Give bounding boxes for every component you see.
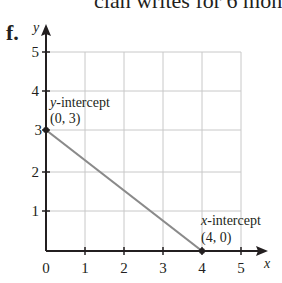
y-tick-5: 5 — [32, 44, 40, 60]
x-tick-3: 3 — [159, 260, 167, 276]
y-intercept-title: y-intercept — [48, 95, 110, 110]
x-tick-labels: 0 1 2 3 4 5 — [42, 260, 245, 276]
y-tick-4: 4 — [32, 83, 40, 99]
x-intercept-title: x-intercept — [200, 213, 261, 228]
x-tick-5: 5 — [237, 260, 245, 276]
x-intercept-coords: (4, 0) — [201, 230, 232, 246]
y-intercept-point — [43, 127, 49, 133]
y-tick-1: 1 — [32, 203, 40, 219]
x-intercept-point — [199, 248, 205, 254]
x-tick-0: 0 — [42, 260, 50, 276]
x-tick-2: 2 — [120, 260, 128, 276]
y-tick-2: 2 — [32, 164, 40, 180]
x-axis-label: x — [263, 256, 271, 271]
line-chart: 0 1 2 3 4 5 1 2 3 4 5 x y y-intercept (0… — [0, 0, 282, 283]
y-tick-3: 3 — [35, 122, 43, 138]
x-tick-4: 4 — [198, 260, 206, 276]
y-tick-labels: 1 2 3 4 5 — [32, 44, 43, 219]
y-intercept-coords: (0, 3) — [50, 111, 81, 127]
y-axis-label: y — [31, 20, 40, 35]
x-tick-1: 1 — [81, 260, 89, 276]
